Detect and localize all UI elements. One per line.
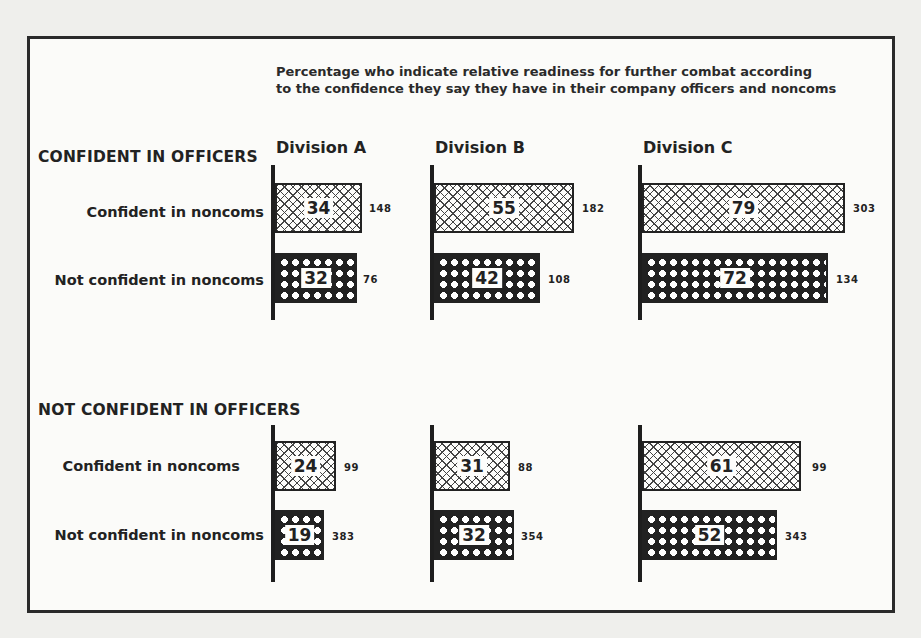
- bar-s1-b-not-confident: 42: [434, 253, 540, 303]
- bar-s1-a-not-confident: 32: [275, 253, 357, 303]
- division-b-header: Division B: [435, 138, 525, 157]
- bar-value: 79: [729, 198, 759, 218]
- bar-s1-c-confident: 79: [642, 183, 845, 233]
- section-confident-in-officers: CONFIDENT IN OFFICERS: [38, 148, 258, 166]
- row-label-s1-not-confident-noncoms: Not confident in noncoms: [24, 272, 264, 288]
- n-s2-a-not-confident: 383: [332, 531, 354, 542]
- bar-value: 55: [489, 198, 519, 218]
- row-label-s1-confident-noncoms: Confident in noncoms: [24, 204, 264, 220]
- bar-s2-a-confident: 24: [275, 441, 336, 491]
- n-s2-b-not-confident: 354: [521, 531, 543, 542]
- row-label-s2-not-confident-noncoms: Not confident in noncoms: [24, 527, 264, 543]
- division-a-header: Division A: [276, 138, 366, 157]
- n-s1-a-not-confident: 76: [363, 274, 378, 285]
- bar-value: 32: [459, 525, 489, 545]
- bar-value: 32: [301, 268, 331, 288]
- section-not-confident-in-officers: NOT CONFIDENT IN OFFICERS: [38, 401, 301, 419]
- bar-s2-b-not-confident: 32: [434, 510, 514, 560]
- bar-value: 61: [707, 456, 737, 476]
- bar-s2-a-not-confident: 19: [275, 510, 324, 560]
- n-s2-c-confident: 99: [812, 462, 827, 473]
- n-s1-c-not-confident: 134: [836, 274, 858, 285]
- row-label-s2-confident-noncoms: Confident in noncoms: [0, 458, 240, 474]
- bar-value: 31: [457, 456, 487, 476]
- bar-s2-b-confident: 31: [434, 441, 510, 491]
- n-s2-b-confident: 88: [518, 462, 533, 473]
- bar-s1-b-confident: 55: [434, 183, 574, 233]
- n-s1-c-confident: 303: [853, 203, 875, 214]
- bar-s2-c-not-confident: 52: [642, 510, 777, 560]
- bar-value: 42: [472, 268, 502, 288]
- bar-s1-a-confident: 34: [275, 183, 362, 233]
- bar-value: 19: [285, 525, 315, 545]
- n-s1-b-confident: 182: [582, 203, 604, 214]
- n-s2-a-confident: 99: [344, 462, 359, 473]
- n-s1-b-not-confident: 108: [548, 274, 570, 285]
- bar-value: 34: [304, 198, 334, 218]
- chart-title: Percentage who indicate relative readine…: [276, 63, 836, 97]
- bar-s2-c-confident: 61: [642, 441, 801, 491]
- bar-s1-c-not-confident: 72: [642, 253, 828, 303]
- n-s1-a-confident: 148: [369, 203, 391, 214]
- bar-value: 52: [695, 525, 725, 545]
- bar-value: 72: [720, 268, 750, 288]
- bar-value: 24: [291, 456, 321, 476]
- n-s2-c-not-confident: 343: [785, 531, 807, 542]
- division-c-header: Division C: [643, 138, 732, 157]
